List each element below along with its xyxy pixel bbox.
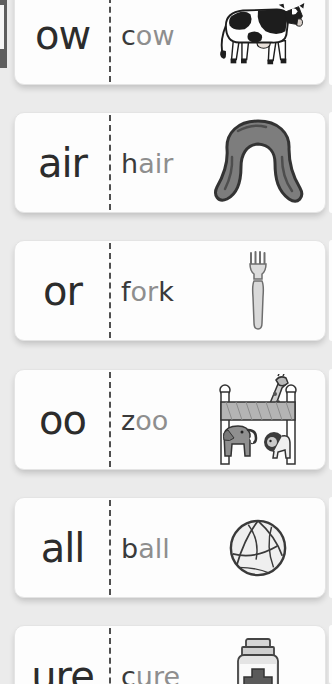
word-onset: c — [121, 19, 136, 50]
phoneme-label: oo — [15, 370, 110, 469]
dashed-divider — [109, 243, 111, 338]
phoneme-label: ure — [15, 626, 110, 684]
card-illustration — [197, 241, 319, 340]
zoo-icon — [212, 374, 304, 466]
example-word: fork — [121, 275, 174, 306]
phonics-card-all[interactable]: all ball — [14, 497, 326, 598]
word-coda: k — [158, 275, 174, 306]
card-illustration — [197, 0, 319, 84]
dashed-divider — [109, 115, 111, 210]
phonics-card-air[interactable]: air hair — [14, 112, 326, 213]
phonics-flashcards-screen: ow cow — [0, 0, 332, 684]
hair-icon — [208, 117, 308, 209]
ball-icon — [227, 517, 289, 579]
phoneme-label: ow — [15, 0, 110, 84]
word-onset: f — [121, 275, 131, 306]
card-illustration — [197, 626, 319, 684]
example-word: hair — [121, 147, 173, 178]
fork-icon — [245, 251, 271, 331]
offscreen-tile-inner — [0, 5, 4, 49]
card-illustration — [197, 113, 319, 212]
word-onset: b — [121, 532, 138, 563]
cow-icon — [210, 1, 306, 69]
word-onset: c — [121, 660, 136, 684]
phoneme-label: or — [15, 241, 110, 340]
offscreen-tile-fragment — [0, 0, 7, 68]
word-target: all — [138, 532, 170, 563]
dashed-divider — [109, 0, 111, 82]
word-target: ow — [136, 19, 175, 50]
phonics-card-ow[interactable]: ow cow — [14, 0, 326, 85]
phoneme-label: all — [15, 498, 110, 597]
word-target: oo — [135, 404, 168, 435]
cure-icon — [230, 637, 286, 684]
example-word: ball — [121, 532, 170, 563]
dashed-divider — [109, 372, 111, 467]
example-word: cure — [121, 660, 180, 684]
phonics-card-ure[interactable]: ure cure — [14, 625, 326, 684]
word-onset: h — [121, 147, 138, 178]
example-word: zoo — [121, 404, 168, 435]
phonics-card-or[interactable]: or fork — [14, 240, 326, 341]
dashed-divider — [109, 500, 111, 595]
example-word: cow — [121, 19, 174, 50]
word-target: air — [138, 147, 173, 178]
word-target: ure — [136, 660, 180, 684]
card-illustration — [197, 498, 319, 597]
dashed-divider — [109, 628, 111, 684]
word-onset: z — [121, 404, 135, 435]
card-illustration — [197, 370, 319, 469]
word-target: or — [131, 275, 159, 306]
phoneme-label: air — [15, 113, 110, 212]
phonics-card-oo[interactable]: oo zoo — [14, 369, 326, 470]
